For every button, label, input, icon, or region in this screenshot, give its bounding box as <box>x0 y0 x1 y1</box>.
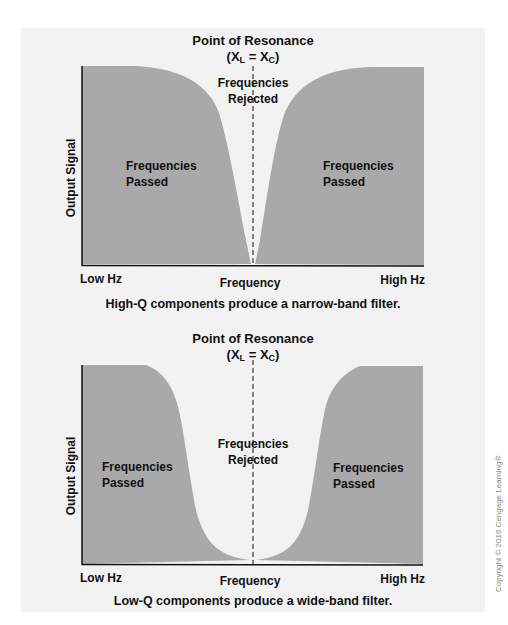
rejected-label: Frequencies <box>218 76 289 90</box>
passed-right-label-2: Passed <box>323 175 365 189</box>
rejected-label-2: Rejected <box>228 92 278 106</box>
chart-caption: High-Q components produce a narrow-band … <box>105 297 400 311</box>
rejected-label-2: Rejected <box>228 453 278 467</box>
passed-right-label-2: Passed <box>333 477 375 491</box>
x-tick-high: High Hz <box>380 572 425 586</box>
x-axis <box>82 565 423 566</box>
passed-left-label-2: Passed <box>102 476 144 490</box>
x-axis-label: Frequency <box>220 276 281 290</box>
passed-left-label-2: Passed <box>126 175 168 189</box>
passed-right-label: Frequencies <box>323 159 394 173</box>
passed-left-label: Frequencies <box>126 159 197 173</box>
passed-right-label: Frequencies <box>333 461 404 475</box>
x-axis <box>82 266 424 267</box>
x-axis-label: Frequency <box>220 574 281 588</box>
x-tick-low: Low Hz <box>80 272 122 286</box>
rejected-label: Frequencies <box>218 437 289 451</box>
chart-subtitle: (XL = XC) <box>227 49 280 65</box>
filter-diagrams: Point of Resonance (XL = XC) Frequencies… <box>0 0 508 625</box>
x-tick-high: High Hz <box>380 273 425 287</box>
chart-caption: Low-Q components produce a wide-band fil… <box>114 594 393 608</box>
narrow-band-chart: Point of Resonance (XL = XC) Frequencies… <box>64 33 425 311</box>
chart-subtitle: (XL = XC) <box>227 347 280 363</box>
passed-left-label: Frequencies <box>102 460 173 474</box>
chart-title: Point of Resonance <box>192 331 313 346</box>
x-tick-low: Low Hz <box>80 571 122 585</box>
copyright-notice: Copyright © 2016 Cengage Learning® <box>494 456 503 592</box>
y-axis-label: Output Signal <box>64 437 78 516</box>
wide-band-chart: Point of Resonance (XL = XC) Frequencies… <box>64 331 425 608</box>
y-axis-label: Output Signal <box>64 139 78 218</box>
chart-title: Point of Resonance <box>192 33 313 48</box>
